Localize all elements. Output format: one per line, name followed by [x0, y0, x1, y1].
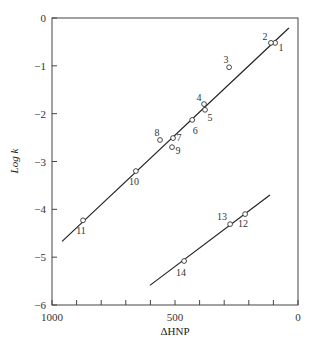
y-tick-label: −1	[34, 60, 46, 72]
data-point-marker	[227, 65, 232, 70]
data-point-label: 1	[279, 42, 284, 53]
y-tick-label: −4	[34, 203, 46, 215]
y-tick-label: −3	[34, 156, 46, 168]
data-point-label: 11	[76, 225, 86, 236]
x-tick-label: 0	[295, 311, 301, 323]
data-point-marker	[228, 222, 233, 227]
data-point-label: 12	[238, 218, 248, 229]
x-tick-label: 1000	[41, 311, 64, 323]
plot-frame	[52, 18, 298, 305]
data-point-marker	[190, 117, 195, 122]
data-point-marker	[158, 138, 163, 143]
data-point-label: 10	[129, 176, 139, 187]
data-point-label: 8	[154, 127, 159, 138]
x-axis-label: ΔHNP	[160, 325, 189, 337]
data-point-label: 14	[176, 267, 186, 278]
data-point-label: 7	[177, 132, 182, 143]
upper-fit-line	[62, 28, 289, 241]
data-point-marker	[170, 145, 175, 150]
data-point-marker	[171, 136, 176, 141]
y-tick-label: −6	[34, 299, 46, 311]
fit-lines	[62, 28, 289, 285]
y-tick-label: −2	[34, 108, 46, 120]
data-point-label: 9	[176, 145, 181, 156]
data-points: 1234567891011121314	[76, 31, 283, 278]
data-point-marker	[182, 259, 187, 264]
data-point-label: 6	[193, 125, 198, 136]
data-point-label: 13	[217, 211, 227, 222]
lower-fit-line	[150, 195, 270, 285]
y-axis-label: Log k	[8, 148, 20, 175]
data-point-marker	[202, 102, 207, 107]
data-point-label: 3	[224, 54, 229, 65]
y-tick-label: 0	[41, 12, 47, 24]
y-tick-label: −5	[34, 251, 46, 263]
x-axis-ticks: 10005000	[41, 300, 301, 323]
data-point-marker	[269, 40, 274, 45]
data-point-label: 2	[262, 31, 267, 42]
log-k-vs-dhnp-chart: 0−1−2−3−4−5−6 10005000 12345678910111213…	[0, 0, 315, 347]
y-axis-ticks: 0−1−2−3−4−5−6	[34, 12, 57, 311]
data-point-marker	[133, 169, 138, 174]
data-point-marker	[81, 218, 86, 223]
x-tick-label: 500	[167, 311, 184, 323]
data-point-label: 4	[197, 92, 202, 103]
data-point-marker	[243, 212, 248, 217]
data-point-label: 5	[208, 112, 213, 123]
